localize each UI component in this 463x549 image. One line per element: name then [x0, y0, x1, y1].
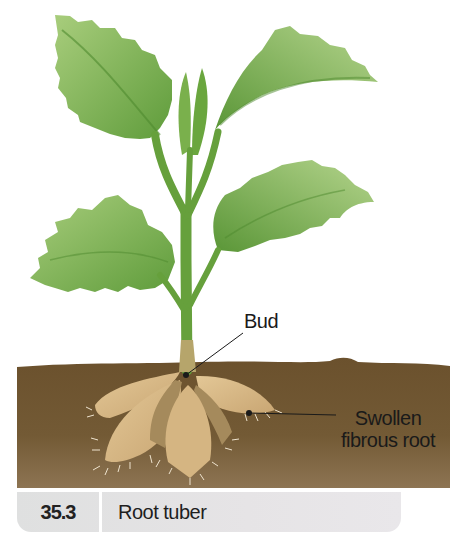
leaf-top-center	[179, 68, 208, 155]
stem-base	[179, 340, 196, 372]
root-tuber-diagram	[0, 0, 463, 549]
figure-caption: 35.3 Root tuber	[17, 492, 401, 532]
leaf-mid-left	[30, 195, 175, 292]
figure-number: 35.3	[17, 492, 102, 532]
label-swollen-line1: Swollen	[328, 407, 448, 429]
label-swollen-fibrous-root: Swollen fibrous root	[328, 407, 448, 451]
leaf-top-right	[215, 26, 378, 130]
figure-title: Root tuber	[102, 492, 206, 532]
leaf-mid-right	[213, 160, 374, 252]
label-bud: Bud	[244, 310, 278, 332]
label-swollen-line2: fibrous root	[328, 429, 448, 451]
leaf-top-left	[55, 15, 172, 139]
